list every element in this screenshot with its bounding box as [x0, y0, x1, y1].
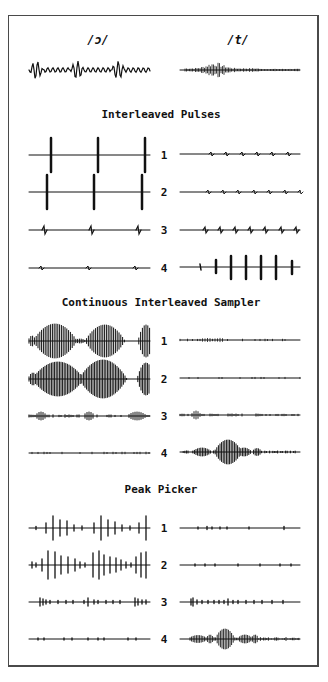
waveform-canvas — [0, 0, 328, 682]
